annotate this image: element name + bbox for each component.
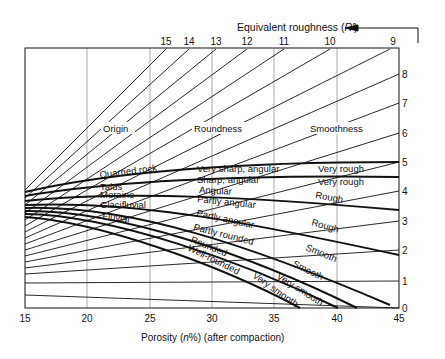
svg-text:40: 40: [331, 313, 343, 324]
svg-text:Fluvial: Fluvial: [102, 210, 131, 225]
svg-text:2: 2: [402, 245, 408, 256]
svg-text:7: 7: [402, 98, 408, 109]
top-tick-labels: 15 14 13 12 11 10 9: [160, 36, 396, 47]
svg-text:15: 15: [160, 36, 172, 47]
svg-text:Rough: Rough: [315, 189, 344, 205]
svg-text:12: 12: [241, 36, 253, 47]
roughness-porosity-chart: Equivalent roughness (R') 15 14 13 12 11…: [0, 0, 445, 359]
svg-text:20: 20: [81, 313, 93, 324]
svg-text:35: 35: [268, 313, 280, 324]
svg-text:30: 30: [206, 313, 218, 324]
svg-text:10: 10: [324, 36, 336, 47]
roundness-labels: Very sharp, angular Sharp, angular Angul…: [186, 163, 279, 276]
svg-text:1: 1: [402, 276, 408, 287]
svg-text:3: 3: [402, 216, 408, 227]
svg-text:Very sharp, angular: Very sharp, angular: [197, 163, 279, 174]
svg-text:Smooth: Smooth: [304, 242, 338, 264]
x-tick-labels: 15 20 25 30 35 40 45: [19, 313, 405, 324]
svg-text:Partly angular: Partly angular: [197, 193, 256, 210]
svg-text:Quarried rock: Quarried rock: [99, 162, 158, 180]
svg-text:11: 11: [279, 36, 290, 47]
svg-text:8: 8: [402, 69, 408, 80]
svg-text:Origin: Origin: [103, 123, 128, 134]
origin-labels: Quarried rock Talus Moraine Glacifluvial…: [99, 162, 158, 225]
svg-text:Sharp, angular: Sharp, angular: [197, 174, 259, 185]
svg-text:45: 45: [393, 313, 405, 324]
svg-text:Roundness: Roundness: [194, 123, 242, 134]
svg-text:25: 25: [144, 313, 156, 324]
svg-text:9: 9: [390, 36, 396, 47]
svg-text:14: 14: [183, 36, 195, 47]
svg-text:13: 13: [210, 36, 222, 47]
svg-text:Very rough: Very rough: [318, 176, 364, 187]
x-axis-title: Porosity (n%) (after compaction): [141, 332, 284, 343]
svg-text:Glacifluvial: Glacifluvial: [100, 199, 146, 210]
svg-text:6: 6: [402, 128, 408, 139]
svg-text:5: 5: [402, 157, 408, 168]
svg-text:Very rough: Very rough: [318, 163, 364, 174]
svg-text:15: 15: [19, 313, 31, 324]
svg-text:4: 4: [402, 186, 408, 197]
svg-text:Smoothness: Smoothness: [310, 123, 363, 134]
right-tick-labels: 0 1 2 3 4 5 6 7 8: [402, 69, 408, 314]
svg-text:Smooth: Smooth: [291, 258, 325, 282]
top-axis-title: Equivalent roughness (R'): [237, 21, 358, 33]
